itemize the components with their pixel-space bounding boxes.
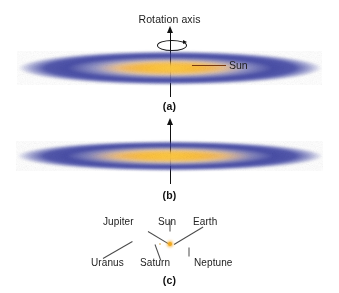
rotation-axis-label: Rotation axis <box>139 14 201 25</box>
panel-tag-a: (a) <box>163 101 176 112</box>
planet-label-uranus: Uranus <box>91 258 124 268</box>
leader-line-neptune <box>189 248 190 257</box>
disk-panel-b <box>0 140 339 172</box>
panel-tag-b: (b) <box>162 190 176 201</box>
planet-label-earth: Earth <box>193 217 217 227</box>
panel-tag-c: (c) <box>163 275 176 286</box>
rotation-direction-arrowhead-icon <box>183 40 187 44</box>
disk-grain-texture-b <box>0 140 339 172</box>
planet-label-sun: Sun <box>158 217 176 227</box>
disk-grain-texture-a <box>0 50 339 86</box>
panel-c: Jupiter Sun Earth Uranus Saturn Neptune <box>0 206 339 274</box>
sun-marker-dot <box>168 242 173 247</box>
disk-panel-a <box>0 50 339 86</box>
sun-leader-line-a <box>192 65 226 66</box>
planet-label-saturn: Saturn <box>140 258 170 268</box>
sun-label-a: Sun <box>229 60 248 71</box>
figure-canvas: Rotation axis <box>0 0 339 293</box>
planet-label-neptune: Neptune <box>194 258 233 268</box>
planet-label-jupiter: Jupiter <box>103 217 134 227</box>
